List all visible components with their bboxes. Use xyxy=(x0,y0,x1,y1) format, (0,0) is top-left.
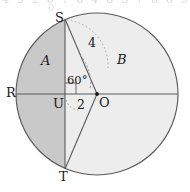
point-label-r: R xyxy=(6,86,16,99)
point-label-t: T xyxy=(59,170,68,183)
region-label-b: B xyxy=(117,53,127,66)
point-label-u: U xyxy=(53,97,64,110)
region-label-a: A xyxy=(41,54,50,67)
circle-diagram-svg xyxy=(0,0,190,192)
measure-label-segment: 2 xyxy=(77,99,85,112)
measure-label-radius: 4 xyxy=(88,37,96,50)
region-b-fill xyxy=(65,0,190,192)
geometry-figure-container: 4 3 2 6 7 8 4 8 3 7 8 6 9 0 xyxy=(0,0,190,192)
measure-label-angle: 60° xyxy=(67,75,87,87)
point-label-s: S xyxy=(55,11,64,24)
point-label-o: O xyxy=(99,96,110,109)
